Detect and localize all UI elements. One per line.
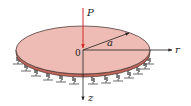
z-axis-label: z xyxy=(87,92,94,103)
r-axis-label: r xyxy=(175,44,181,55)
load-label: P xyxy=(86,7,94,18)
plate-on-elastic-foundation-diagram: P 0 a r z xyxy=(0,0,191,106)
origin-label: 0 xyxy=(75,48,81,58)
radius-label: a xyxy=(107,37,113,48)
